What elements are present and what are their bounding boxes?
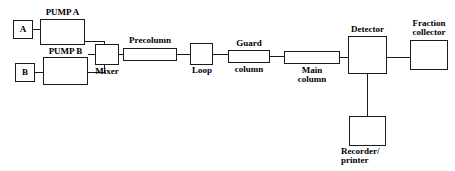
detector-label: Detector (343, 25, 392, 34)
wire-detector-to-fraction-collector (387, 57, 410, 58)
pump-a-label: PUMP A (34, 8, 91, 17)
pump-a[interactable] (40, 19, 85, 45)
guard-column-label-top: Guard (227, 39, 271, 48)
injection-loop[interactable] (190, 43, 213, 65)
fraction-collector-label-bottom: collector (407, 28, 451, 37)
wire-pump-a-out (85, 41, 105, 42)
wire-b-to-pump-b (35, 72, 43, 73)
injection-loop-label: Loop (186, 66, 218, 75)
guard-column-label-bottom: column (227, 65, 271, 74)
wire-loop-to-guard-column (213, 54, 228, 55)
wire-a-to-pump-a (33, 29, 40, 30)
pump-b[interactable] (43, 57, 88, 85)
mixer[interactable] (95, 44, 119, 65)
precolumn[interactable] (123, 48, 177, 61)
recorder-printer[interactable] (349, 116, 386, 146)
detector[interactable] (348, 36, 387, 74)
wire-detector-to-recorder (367, 74, 368, 117)
wire-precolumn-to-loop (177, 54, 190, 55)
main-column-label-bottom: column (284, 75, 340, 84)
hplc-flow-diagram: A PUMP A B PUMP B Mixer Precolumn Loop G… (0, 0, 455, 171)
pump-b-label: PUMP B (37, 47, 94, 56)
precolumn-label: Precolumn (119, 36, 181, 45)
solvent-reservoir-a-label: A (13, 20, 33, 39)
main-column[interactable] (284, 51, 340, 64)
wire-guard-to-main-column (270, 56, 284, 57)
recorder-printer-label-bottom: printer (341, 156, 395, 165)
guard-column[interactable] (228, 50, 270, 63)
fraction-collector[interactable] (410, 40, 448, 70)
mixer-label: Mixer (89, 67, 125, 76)
solvent-reservoir-b-label: B (15, 63, 35, 82)
